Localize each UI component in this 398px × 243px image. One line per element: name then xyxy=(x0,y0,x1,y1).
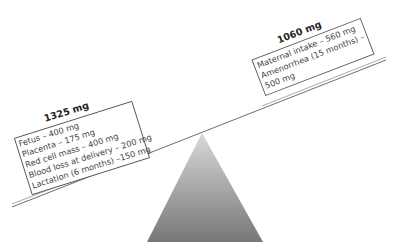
fulcrum-triangle xyxy=(147,133,263,242)
left-pan: 1325 mg Fetus – 400 mg Placenta – 175 mg… xyxy=(10,84,157,194)
right-pan: 1060 mg Maternal intake – 560 mg Amenorr… xyxy=(247,4,374,95)
balance-diagram: 1325 mg Fetus – 400 mg Placenta – 175 mg… xyxy=(0,0,398,243)
